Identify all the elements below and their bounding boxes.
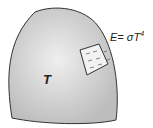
temperature-label: T (43, 72, 51, 87)
equation-text: E= σT (110, 31, 140, 43)
blackbody-diagram (0, 0, 153, 128)
equation-exponent: 4 (140, 30, 144, 37)
body-label: T (43, 72, 51, 87)
stefan-boltzmann-equation: E= σT4 (110, 30, 144, 43)
